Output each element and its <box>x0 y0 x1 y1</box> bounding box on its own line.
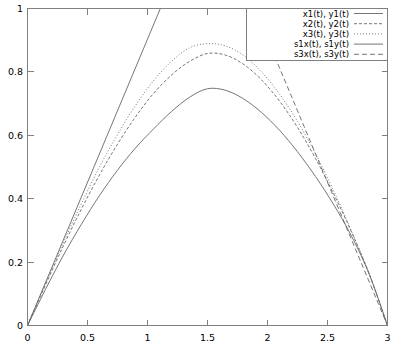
x-tick-label-0: 0 <box>24 332 30 343</box>
plot-container: 0 0.2 0.4 0.6 0.8 1 0 0.5 1 1.5 2 2.5 3 <box>0 0 401 353</box>
legend-label-4: s3x(t), s3y(t) <box>294 49 349 59</box>
y-tick-label-0.6: 0.6 <box>8 130 23 141</box>
y-tick-label-0.2: 0.2 <box>8 257 23 268</box>
series-x1-y1-curve <box>28 88 388 325</box>
x-tick-label-2.5: 2.5 <box>320 332 335 343</box>
x-tick-label-1.5: 1.5 <box>200 332 215 343</box>
x-tick-label-3: 3 <box>384 332 390 343</box>
x-tick-label-0.5: 0.5 <box>80 332 95 343</box>
series-x3-y3-curve <box>28 44 388 326</box>
chart-canvas: 0 0.2 0.4 0.6 0.8 1 0 0.5 1 1.5 2 2.5 3 <box>0 0 401 353</box>
y-tick-label-0: 0 <box>17 320 23 331</box>
legend-label-2: x3(t), y3(t) <box>303 29 349 39</box>
legend-label-3: s1x(t), s1y(t) <box>294 39 349 49</box>
series-x2-y2-curve <box>28 53 388 325</box>
y-tick-label-1: 1 <box>17 3 23 14</box>
legend-label-0: x1(t), y1(t) <box>303 9 349 19</box>
legend: x1(t), y1(t) x2(t), y2(t) x3(t), y3(t) s… <box>247 9 388 61</box>
legend-label-1: x2(t), y2(t) <box>303 19 349 29</box>
y-tick-label-0.8: 0.8 <box>8 66 23 77</box>
x-tick-label-1: 1 <box>144 332 150 343</box>
y-tick-label-0.4: 0.4 <box>8 193 23 204</box>
x-tick-label-2: 2 <box>264 332 270 343</box>
